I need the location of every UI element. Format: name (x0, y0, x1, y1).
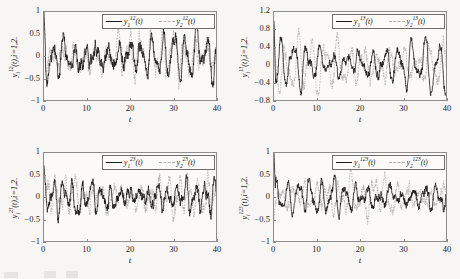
y-axis-label: yi12(t),i=1,2. (10, 11, 19, 103)
x-tick-mark (217, 98, 218, 101)
legend-label-y1_23: y123(t) (124, 159, 143, 167)
scan-artifact (66, 271, 78, 278)
legend-swatch-y2_13 (389, 21, 405, 22)
y-axis-label: yi23(t),i=1,2. (10, 152, 19, 244)
x-tick-label: 30 (392, 245, 416, 254)
x-tick-label: 30 (162, 245, 186, 254)
y-axis-label-host: yi23(t),i=1,2. (10, 152, 22, 242)
y-tick-mark (273, 47, 276, 48)
y-tick-mark (43, 101, 46, 102)
series-y2_12 (44, 23, 216, 89)
legend-swatch-y2_12 (159, 21, 175, 22)
x-tick-label: 20 (118, 104, 142, 113)
legend-entry-y1_123[interactable]: y1123(t) (336, 159, 389, 167)
y-axis-label: yi13(t),i=1,2. (240, 11, 249, 103)
series-y2_123 (274, 167, 446, 224)
x-tick-mark (447, 239, 448, 242)
y-tick-mark (273, 197, 276, 198)
legend-entry-y2_13[interactable]: y213(t) (389, 18, 442, 26)
x-tick-mark (217, 239, 218, 242)
y-tick-mark (273, 29, 276, 30)
x-axis-label: t (273, 114, 447, 124)
x-tick-mark (130, 239, 131, 242)
x-tick-mark (447, 98, 448, 101)
legend-label-y2_123: y2123(t) (407, 159, 428, 167)
legend[interactable]: y113(t)y213(t) (332, 14, 445, 29)
x-tick-label: 20 (118, 245, 142, 254)
y-tick-mark (273, 175, 276, 176)
x-tick-mark (317, 239, 318, 242)
legend-swatch-y1_23 (106, 162, 122, 163)
legend-swatch-y1_12 (106, 21, 122, 22)
series-y1_13 (274, 21, 446, 96)
chart-panel-top-right: −0.8−0.400.40.81.2010203040tyi13(t),i=1,… (230, 0, 460, 139)
chart-panel-bottom-left: −1−0.500.51010203040tyi23(t),i=1,2.y123(… (0, 140, 230, 279)
legend-label-y1_123: y1123(t) (354, 159, 375, 167)
x-tick-mark (273, 239, 274, 242)
legend[interactable]: y112(t)y212(t) (102, 14, 215, 29)
x-tick-label: 30 (392, 104, 416, 113)
legend-entry-y2_12[interactable]: y212(t) (159, 18, 212, 26)
y-tick-mark (273, 101, 276, 102)
x-tick-mark (317, 98, 318, 101)
legend-swatch-y1_13 (336, 21, 352, 22)
x-tick-label: 10 (305, 104, 329, 113)
y-axis-label-host: yi13(t),i=1,2. (240, 11, 252, 101)
legend-entry-y1_12[interactable]: y112(t) (106, 18, 159, 26)
x-axis-label: t (273, 255, 447, 265)
y-tick-mark (43, 242, 46, 243)
chart-panel-bottom-right: −1−0.500.51010203040tyi123(t),i=1,2.y112… (230, 140, 460, 279)
x-axis-label: t (43, 255, 217, 265)
y-tick-mark (43, 197, 46, 198)
x-tick-label: 40 (435, 245, 459, 254)
y-tick-mark (273, 242, 276, 243)
x-tick-mark (174, 239, 175, 242)
y-axis-label: yi123(t),i=1,2. (240, 152, 249, 244)
y-axis-label-host: yi123(t),i=1,2. (240, 152, 252, 242)
legend-entry-y2_123[interactable]: y2123(t) (389, 159, 442, 167)
legend-swatch-y1_123 (336, 162, 352, 163)
legend[interactable]: y1123(t)y2123(t) (332, 155, 445, 170)
x-tick-label: 40 (205, 245, 229, 254)
legend-label-y2_13: y213(t) (407, 18, 426, 26)
legend[interactable]: y123(t)y223(t) (102, 155, 215, 170)
x-axis-label: t (43, 114, 217, 124)
legend-entry-y2_23[interactable]: y223(t) (159, 159, 212, 167)
x-tick-label: 10 (75, 245, 99, 254)
scan-artifact (4, 272, 18, 278)
chart-panel-top-left: −1−0.500.51010203040tyi12(t),i=1,2.y112(… (0, 0, 230, 139)
x-tick-mark (360, 239, 361, 242)
legend-entry-y1_23[interactable]: y123(t) (106, 159, 159, 167)
scan-artifact (44, 271, 56, 278)
x-tick-label: 20 (348, 104, 372, 113)
x-tick-mark (43, 98, 44, 101)
x-tick-label: 40 (435, 104, 459, 113)
x-tick-label: 10 (75, 104, 99, 113)
figure-grid: −1−0.500.51010203040tyi12(t),i=1,2.y112(… (0, 0, 460, 279)
y-tick-mark (43, 56, 46, 57)
y-tick-mark (43, 79, 46, 80)
x-tick-mark (87, 98, 88, 101)
legend-label-y1_12: y112(t) (124, 18, 143, 26)
legend-swatch-y2_123 (389, 162, 405, 163)
y-tick-mark (43, 152, 46, 153)
x-tick-label: 10 (305, 245, 329, 254)
y-tick-mark (273, 65, 276, 66)
x-tick-mark (174, 98, 175, 101)
x-tick-label: 0 (31, 245, 55, 254)
y-tick-mark (273, 220, 276, 221)
y-tick-mark (43, 220, 46, 221)
x-tick-mark (404, 239, 405, 242)
x-tick-mark (404, 98, 405, 101)
legend-entry-y1_13[interactable]: y113(t) (336, 18, 389, 26)
x-tick-mark (273, 98, 274, 101)
x-tick-label: 30 (162, 104, 186, 113)
legend-swatch-y2_23 (159, 162, 175, 163)
x-tick-label: 20 (348, 245, 372, 254)
x-tick-mark (43, 239, 44, 242)
x-tick-mark (130, 98, 131, 101)
y-tick-mark (43, 175, 46, 176)
y-axis-label-host: yi12(t),i=1,2. (10, 11, 22, 101)
y-tick-mark (273, 83, 276, 84)
y-tick-mark (43, 34, 46, 35)
